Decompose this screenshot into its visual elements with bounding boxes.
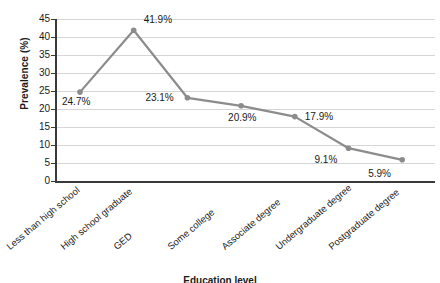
gridline [56, 127, 435, 128]
y-tick-label: 35 [28, 50, 50, 60]
y-tick-label: 20 [28, 104, 50, 114]
gridline [56, 37, 435, 38]
gridline [56, 109, 435, 110]
y-tick-label: 10 [28, 140, 50, 150]
y-tick-label: 15 [28, 122, 50, 132]
data-point-label: 41.9% [144, 15, 172, 25]
y-tick-label: 30 [28, 68, 50, 78]
gridline [56, 73, 435, 74]
gridline [56, 19, 435, 20]
data-point-label: 17.9% [305, 112, 333, 122]
chart-container: Prevalence (%) 051015202530354045 24.7%4… [0, 0, 440, 283]
x-axis-title: Education level [0, 275, 440, 283]
x-category-label: Some college [166, 207, 217, 252]
gridlines-layer [56, 19, 435, 181]
gridline [56, 55, 435, 56]
gridline [56, 163, 435, 164]
x-category-label: GED [112, 231, 134, 252]
data-point-label: 5.9% [368, 169, 391, 179]
y-tick-label: 25 [28, 86, 50, 96]
gridline [56, 145, 435, 146]
data-point-label: 24.7% [62, 97, 90, 107]
y-tick-label: 5 [28, 158, 50, 168]
y-tick-label: 0 [28, 176, 50, 186]
data-point-label: 9.1% [315, 155, 338, 165]
y-tick-label: 40 [28, 32, 50, 42]
y-axis-line [55, 19, 57, 182]
gridline [56, 91, 435, 92]
data-point-label: 20.9% [228, 113, 256, 123]
x-axis-line [55, 181, 435, 183]
data-point-label: 23.1% [145, 93, 173, 103]
y-tick-label: 45 [28, 14, 50, 24]
